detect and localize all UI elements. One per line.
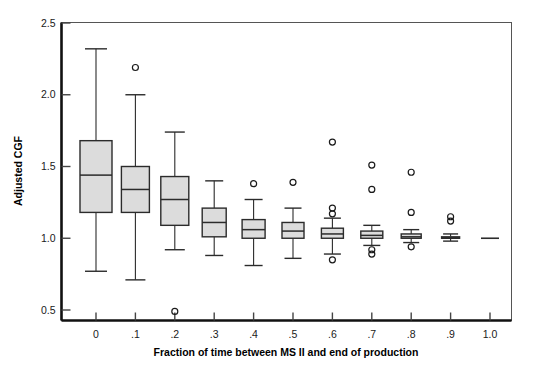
x-tick-label: .1: [131, 328, 140, 340]
x-tick-label: .4: [249, 328, 258, 340]
boxplot-iqr-rect: [80, 141, 112, 213]
y-axis-title: Adjusted CGF: [12, 135, 24, 206]
y-tick-label: 0.5: [41, 304, 56, 316]
y-tick-label: 1.0: [41, 232, 56, 244]
x-tick-label: 1.0: [483, 328, 498, 340]
boxplot-figure: 0.51.01.52.02.5 0.1.2.3.4.5.6.7.8.91.0 A…: [0, 0, 536, 367]
boxplot-iqr-rect: [161, 177, 189, 226]
x-tick-label: .8: [407, 328, 416, 340]
x-tick-label: .7: [367, 328, 376, 340]
x-tick-label: .3: [210, 328, 219, 340]
x-tick-label: .9: [446, 328, 455, 340]
x-tick-label: .5: [289, 328, 298, 340]
y-tick-label: 1.5: [41, 160, 56, 172]
chart-canvas: 0.51.01.52.02.5 0.1.2.3.4.5.6.7.8.91.0 A…: [0, 0, 536, 367]
x-axis-title: Fraction of time between MS II and end o…: [154, 346, 419, 358]
y-tick-label: 2.5: [41, 17, 56, 29]
y-tick-label: 2.0: [41, 88, 56, 100]
x-tick-label: 0: [93, 328, 99, 340]
x-tick-label: .6: [328, 328, 337, 340]
x-tick-label: .2: [170, 328, 179, 340]
